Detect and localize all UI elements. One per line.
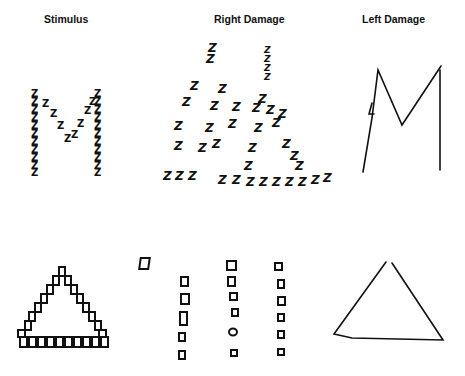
svg-text:Z: Z <box>310 173 320 187</box>
svg-text:Z: Z <box>227 117 237 131</box>
svg-text:Z: Z <box>42 98 49 109</box>
left-damage-plain-m <box>363 66 441 172</box>
svg-text:Z: Z <box>189 79 199 93</box>
svg-text:Z: Z <box>173 119 183 133</box>
svg-text:Z: Z <box>271 116 281 130</box>
svg-text:Z: Z <box>271 175 281 189</box>
svg-text:Z: Z <box>231 100 241 114</box>
svg-text:Z: Z <box>209 99 219 113</box>
svg-text:Z: Z <box>263 72 271 82</box>
svg-text:Z: Z <box>197 141 207 155</box>
figure-canvas: ZZZ ZZZ ZZZ ZZ ZZZ ZZZ ZZZ ZZ ZZZ ZZZ ZZ… <box>0 0 465 376</box>
right-damage-scattered-zs: ZZ ZZ ZZ ZZ Z ZZZ ZZZ ZZZ ZZ ZZZ Z ZZZ Z… <box>162 41 332 189</box>
stimulus-triangle-of-squares <box>18 267 108 347</box>
left-damage-plain-triangle <box>334 262 443 340</box>
svg-text:Z: Z <box>322 171 332 185</box>
svg-text:Z: Z <box>258 175 268 189</box>
svg-text:Z: Z <box>247 141 257 155</box>
svg-text:Z: Z <box>245 175 255 189</box>
svg-text:Z: Z <box>50 108 57 119</box>
svg-text:Z: Z <box>297 175 307 189</box>
svg-text:Z: Z <box>71 129 78 140</box>
svg-text:Z: Z <box>31 167 38 178</box>
svg-text:Z: Z <box>173 139 183 153</box>
svg-text:Z: Z <box>211 137 221 151</box>
right-damage-square-columns <box>139 258 285 359</box>
svg-text:Z: Z <box>94 167 101 178</box>
svg-text:Z: Z <box>181 95 191 109</box>
stimulus-m-of-zs: ZZZ ZZZ ZZZ ZZ ZZZ ZZZ ZZZ ZZ ZZZ ZZZ ZZ <box>31 88 101 178</box>
svg-text:Z: Z <box>162 169 172 183</box>
svg-text:Z: Z <box>57 120 64 131</box>
svg-text:Z: Z <box>243 159 253 173</box>
svg-text:Z: Z <box>204 121 214 135</box>
svg-text:Z: Z <box>205 52 215 66</box>
svg-text:Z: Z <box>284 175 294 189</box>
svg-text:Z: Z <box>174 169 184 183</box>
svg-text:Z: Z <box>265 103 275 117</box>
svg-text:Z: Z <box>217 173 227 187</box>
svg-text:Z: Z <box>294 159 304 173</box>
svg-text:Z: Z <box>77 118 84 129</box>
svg-text:Z: Z <box>251 101 261 115</box>
svg-text:Z: Z <box>89 96 96 107</box>
svg-text:Z: Z <box>253 121 263 135</box>
svg-text:Z: Z <box>217 82 227 96</box>
svg-text:Z: Z <box>187 169 197 183</box>
svg-text:Z: Z <box>231 173 241 187</box>
